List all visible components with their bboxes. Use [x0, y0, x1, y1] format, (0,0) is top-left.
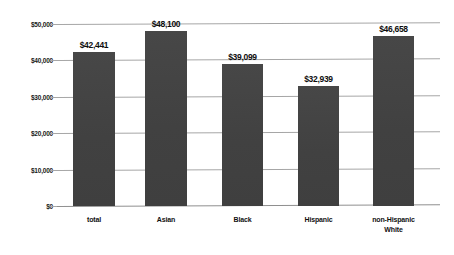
bar — [373, 36, 414, 206]
y-axis-tick — [50, 206, 57, 207]
bar-value-label: $46,658 — [364, 24, 423, 34]
y-axis-tick — [50, 170, 57, 171]
x-axis-category-label: non-Hispanic White — [357, 215, 430, 234]
x-axis-category-label: total — [57, 215, 131, 225]
y-axis-tick-label: $20,000 — [1, 130, 53, 137]
y-axis-tick — [50, 97, 57, 98]
bar-value-label: $42,441 — [64, 40, 124, 50]
y-axis-tick-label: $50,000 — [1, 21, 53, 28]
bar — [222, 64, 263, 206]
x-axis-category-label: Hispanic — [282, 215, 355, 225]
bar-value-label: $39,099 — [213, 52, 272, 62]
bar — [73, 52, 115, 206]
y-axis-tick — [50, 60, 57, 61]
x-axis-category-label: Black — [206, 215, 279, 225]
y-axis-tick-label: $40,000 — [1, 57, 53, 64]
plot-area: $42,441$48,100$39,099$32,939$46,658 — [57, 18, 440, 212]
y-axis-tick-label: $0 — [1, 203, 53, 210]
bar-value-label: $48,100 — [136, 19, 196, 29]
bar — [298, 86, 339, 206]
y-axis-tick — [50, 133, 57, 134]
y-axis: $50,000$40,000$30,000$20,000$10,000$0 — [0, 18, 53, 212]
bar-value-label: $32,939 — [289, 74, 348, 84]
x-axis: totalAsianBlackHispanicnon-Hispanic Whit… — [57, 215, 440, 251]
y-axis-tick-label: $10,000 — [1, 167, 53, 174]
bar — [145, 31, 187, 206]
y-axis-tick — [50, 24, 57, 25]
bar-chart: $50,000$40,000$30,000$20,000$10,000$0 $4… — [0, 0, 454, 255]
y-axis-tick-label: $30,000 — [1, 94, 53, 101]
x-axis-category-label: Asian — [129, 215, 203, 225]
